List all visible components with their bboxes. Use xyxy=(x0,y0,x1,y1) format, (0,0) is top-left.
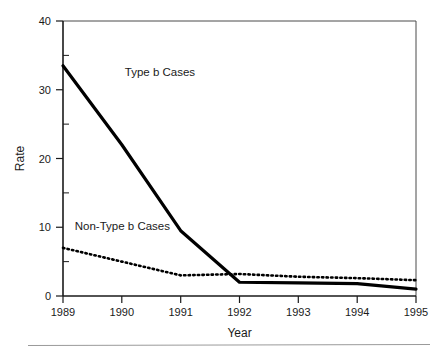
series-line-type-b xyxy=(63,66,416,289)
y-tick-label-0: 0 xyxy=(45,290,51,302)
figure-container: 40 30 20 10 0 Rate 1989 1990 1991 1992 1… xyxy=(0,0,444,355)
series-line-non-type-b xyxy=(63,248,416,280)
x-tick-label-1992: 1992 xyxy=(227,306,251,318)
y-tick-label-30: 30 xyxy=(39,84,51,96)
y-tick-label-40: 40 xyxy=(39,15,51,27)
page-separator-rule xyxy=(28,345,430,346)
x-tick-label-1990: 1990 xyxy=(110,306,134,318)
x-tick-label-1991: 1991 xyxy=(168,306,192,318)
series-label-type-b: Type b Cases xyxy=(125,66,196,78)
x-tick-label-1994: 1994 xyxy=(345,306,369,318)
y-axis-title: Rate xyxy=(13,146,27,172)
y-axis-minor-ticks xyxy=(63,55,69,261)
x-tick-label-1989: 1989 xyxy=(51,306,75,318)
x-tick-label-1995: 1995 xyxy=(404,306,428,318)
x-axis-ticks xyxy=(63,296,416,303)
y-tick-label-20: 20 xyxy=(39,153,51,165)
plot-frame-top-right xyxy=(63,21,416,296)
series-label-non-type-b: Non-Type b Cases xyxy=(75,220,170,232)
x-tick-label-1993: 1993 xyxy=(286,306,310,318)
x-axis-title: Year xyxy=(227,326,251,340)
y-tick-label-10: 10 xyxy=(39,221,51,233)
y-axis-major-ticks xyxy=(56,21,63,296)
line-chart: 40 30 20 10 0 Rate 1989 1990 1991 1992 1… xyxy=(0,0,444,355)
